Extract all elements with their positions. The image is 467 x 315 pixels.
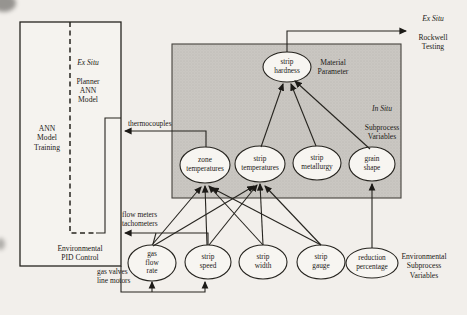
node-zone-temperatures (180, 147, 230, 183)
node-grain-shape (349, 147, 395, 181)
node-reduction-percentage (346, 248, 398, 278)
node-strip-temperatures (235, 146, 285, 182)
node-strip-hardness (263, 52, 311, 82)
diagram-canvas (0, 0, 467, 315)
node-strip-width (239, 245, 287, 279)
arrow-flow-meters (125, 233, 208, 245)
scanned-figure: ANN Model Training Ex Situ Planner ANN M… (0, 0, 467, 315)
node-gas-flow-rate (128, 245, 176, 281)
node-strip-metallurgy (293, 146, 341, 180)
node-strip-gauge (297, 245, 345, 279)
node-strip-speed (185, 245, 231, 279)
